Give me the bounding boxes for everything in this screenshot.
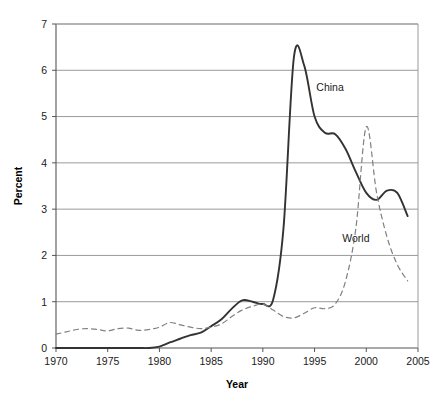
x-tick-label: 2005 — [406, 355, 430, 367]
y-tick-label: 0 — [41, 342, 47, 354]
y-tick-label: 5 — [41, 110, 47, 122]
x-tick-labels-group: 19701975198019851990199520002005 — [44, 355, 430, 367]
y-tick-label: 4 — [41, 157, 47, 169]
y-tick-label: 6 — [41, 64, 47, 76]
x-tick-label: 1990 — [251, 355, 275, 367]
x-tick-label: 2000 — [355, 355, 379, 367]
series-line-world — [56, 126, 408, 334]
y-tick-label: 2 — [41, 249, 47, 261]
chart-container: 76543210 1970197519801985199019952000200… — [0, 0, 448, 407]
x-tick-label: 1995 — [303, 355, 327, 367]
series-line-china — [56, 45, 408, 348]
x-axis-title: Year — [226, 378, 248, 390]
y-axis-title: Percent — [12, 166, 24, 205]
y-tick-label: 1 — [41, 296, 47, 308]
y-tick-labels-group: 76543210 — [41, 18, 47, 354]
x-tick-label: 1975 — [96, 355, 120, 367]
axis-lines-group — [56, 24, 418, 348]
series-paths-group — [56, 45, 408, 348]
x-tick-label: 1980 — [148, 355, 172, 367]
gridlines-group — [56, 24, 418, 302]
y-tick-label: 3 — [41, 203, 47, 215]
y-tick-label: 7 — [41, 18, 47, 30]
x-tick-label: 1985 — [199, 355, 223, 367]
x-tick-label: 1970 — [44, 355, 68, 367]
series-annotation-china: China — [316, 81, 344, 93]
series-annotation-world: World — [342, 232, 369, 244]
line-chart: 76543210 1970197519801985199019952000200… — [0, 0, 448, 407]
